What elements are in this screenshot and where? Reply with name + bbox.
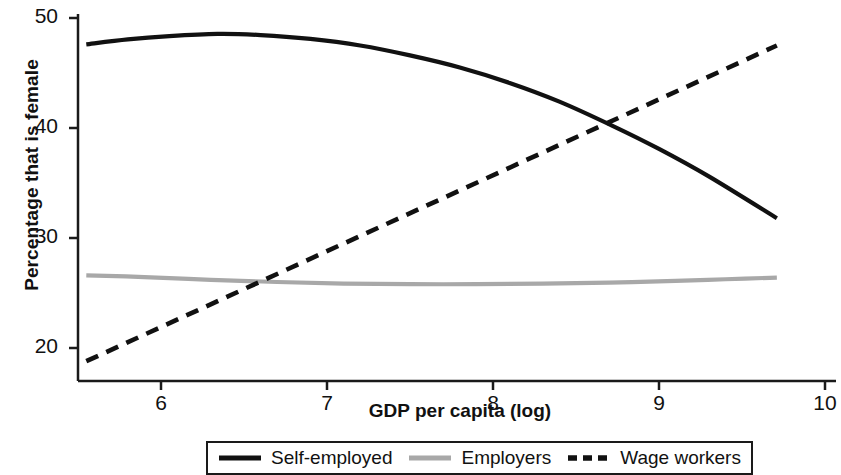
y-axis-title: Percentage that is female bbox=[17, 0, 47, 355]
legend-swatch-solid-gray-icon bbox=[408, 451, 452, 465]
y-tick-label: 30 bbox=[8, 224, 58, 248]
x-tick-label: 8 bbox=[470, 391, 516, 415]
data-series-group bbox=[86, 34, 777, 361]
x-tick-label: 9 bbox=[636, 391, 682, 415]
y-tick-label: 20 bbox=[8, 334, 58, 358]
legend-label-wage-workers: Wage workers bbox=[620, 447, 741, 469]
y-tick-label: 40 bbox=[8, 114, 58, 138]
legend-item-wage-workers: Wage workers bbox=[567, 447, 741, 469]
y-tick-label: 50 bbox=[8, 4, 58, 28]
legend-item-self-employed: Self-employed bbox=[218, 447, 392, 469]
x-tick-label: 7 bbox=[304, 391, 350, 415]
legend-swatch-dashed-black-icon bbox=[567, 451, 611, 465]
series-line-self-employed bbox=[86, 34, 777, 218]
x-tick-label: 10 bbox=[802, 391, 841, 415]
series-line-employers bbox=[86, 275, 777, 284]
x-axis-title: GDP per capita (log) bbox=[80, 400, 840, 422]
chart-legend: Self-employed Employers Wage workers bbox=[206, 441, 753, 475]
legend-swatch-solid-black-icon bbox=[218, 451, 262, 465]
chart-figure: Percentage that is female GDP per capita… bbox=[0, 0, 841, 475]
y-axis-ticks bbox=[69, 18, 78, 348]
legend-item-employers: Employers bbox=[408, 447, 551, 469]
x-axis-ticks bbox=[161, 381, 825, 390]
legend-label-employers: Employers bbox=[461, 447, 551, 469]
x-tick-label: 6 bbox=[138, 391, 184, 415]
series-line-wage-workers bbox=[86, 46, 777, 362]
legend-label-self-employed: Self-employed bbox=[271, 447, 392, 469]
